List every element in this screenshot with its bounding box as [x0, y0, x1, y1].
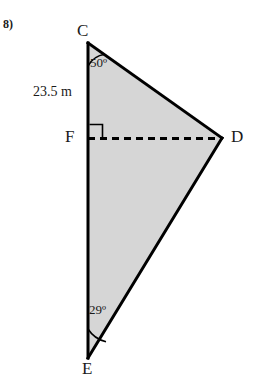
side-length-label-cf: 23.5 m — [33, 85, 72, 99]
vertex-label-c: C — [77, 22, 88, 39]
geometry-figure: 8) C D E F 23.5 m 50º 29º — [0, 0, 254, 390]
vertex-label-f: F — [65, 128, 74, 145]
problem-number: 8) — [3, 18, 13, 30]
vertex-label-e: E — [82, 360, 92, 377]
angle-measure-label-c: 50º — [90, 56, 107, 69]
vertex-label-d: D — [231, 128, 243, 145]
angle-measure-label-e: 29º — [89, 303, 106, 316]
figure-canvas — [0, 0, 254, 390]
